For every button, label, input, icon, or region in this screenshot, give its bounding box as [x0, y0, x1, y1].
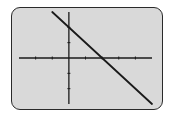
graph-plot: [0, 0, 171, 119]
